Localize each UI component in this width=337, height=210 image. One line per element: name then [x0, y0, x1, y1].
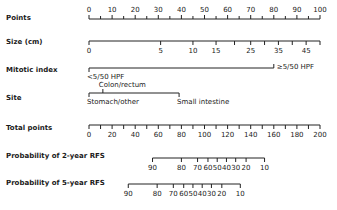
points-tick-label: 30 — [154, 6, 163, 14]
mitotic-index-level-label: ≥5/50 HPF — [277, 63, 314, 71]
total-points-tick-label: 180 — [290, 131, 303, 139]
probability-of-5-year-rfs-tick-label: 10 — [236, 190, 245, 198]
probability-of-2-year-rfs-tick-label: 90 — [148, 164, 157, 172]
site-level-label: Stomach/other — [87, 98, 139, 106]
probability-of-2-year-rfs-tick-label: 80 — [177, 164, 186, 172]
size-tick-label: 10 — [188, 47, 197, 55]
points-tick-label: 90 — [292, 6, 301, 14]
size-tick-label: 15 — [212, 47, 221, 55]
points-tick-label: 60 — [223, 6, 232, 14]
size-tick-label: 25 — [246, 47, 255, 55]
probability-of-5-year-rfs-tick-label: 60 — [179, 190, 188, 198]
nomogram-chart: Points0102030405060708090100Size (cm)051… — [0, 0, 337, 210]
total-points-tick-label: 200 — [313, 131, 326, 139]
total-points-tick-label: 40 — [131, 131, 140, 139]
total-points-tick-label: 140 — [244, 131, 257, 139]
points-tick-label: 40 — [177, 6, 186, 14]
probability-of-5-year-rfs-tick-label: 20 — [217, 190, 226, 198]
probability-of-2-year-rfs-tick-label: 20 — [242, 164, 251, 172]
size-tick-label: 35 — [274, 47, 283, 55]
total-points-tick-label: 20 — [108, 131, 117, 139]
probability-of-5-year-rfs-tick-label: 80 — [153, 190, 162, 198]
probability-of-2-year-rfs-tick-label: 60 — [204, 164, 213, 172]
total-points-tick-label: 0 — [87, 131, 91, 139]
probability-of-2-year-rfs-tick-label: 40 — [222, 164, 231, 172]
points-tick-label: 80 — [269, 6, 278, 14]
row-label-mitotic-index: Mitotic index — [6, 66, 58, 74]
points-tick-label: 100 — [313, 6, 326, 14]
total-points-tick-label: 80 — [177, 131, 186, 139]
points-tick-label: 0 — [87, 6, 91, 14]
probability-of-2-year-rfs-tick-label: 50 — [213, 164, 222, 172]
probability-of-2-year-rfs-tick-label: 10 — [260, 164, 269, 172]
row-label-site: Site — [6, 94, 22, 102]
probability-of-5-year-rfs-tick-label: 40 — [198, 190, 207, 198]
total-points-tick-label: 160 — [267, 131, 280, 139]
probability-of-2-year-rfs-tick-label: 70 — [193, 164, 202, 172]
probability-of-2-year-rfs-tick-label: 30 — [231, 164, 240, 172]
size-tick-label: 5 — [158, 47, 162, 55]
probability-of-5-year-rfs-tick-label: 90 — [124, 190, 133, 198]
probability-of-5-year-rfs-tick-label: 50 — [188, 190, 197, 198]
total-points-tick-label: 120 — [221, 131, 234, 139]
row-label-probability-of-5-year-rfs: Probability of 5-year RFS — [6, 179, 105, 187]
points-tick-label: 70 — [246, 6, 255, 14]
mitotic-index-level-label: <5/50 HPF — [87, 73, 124, 81]
row-label-size-cm: Size (cm) — [6, 38, 43, 46]
points-tick-label: 50 — [200, 6, 209, 14]
total-points-tick-label: 100 — [198, 131, 211, 139]
row-label-points: Points — [6, 14, 31, 22]
site-level-label: Small intestine — [177, 98, 229, 106]
probability-of-5-year-rfs-tick-label: 30 — [207, 190, 216, 198]
total-points-tick-label: 60 — [154, 131, 163, 139]
points-tick-label: 20 — [131, 6, 140, 14]
row-label-probability-of-2-year-rfs: Probability of 2-year RFS — [6, 152, 105, 160]
points-tick-label: 10 — [108, 6, 117, 14]
probability-of-5-year-rfs-tick-label: 70 — [169, 190, 178, 198]
row-label-total-points: Total points — [6, 124, 52, 132]
size-tick-label: 45 — [302, 47, 311, 55]
site-level-label: Colon/rectum — [99, 81, 146, 89]
size-tick-label: 0 — [87, 47, 91, 55]
